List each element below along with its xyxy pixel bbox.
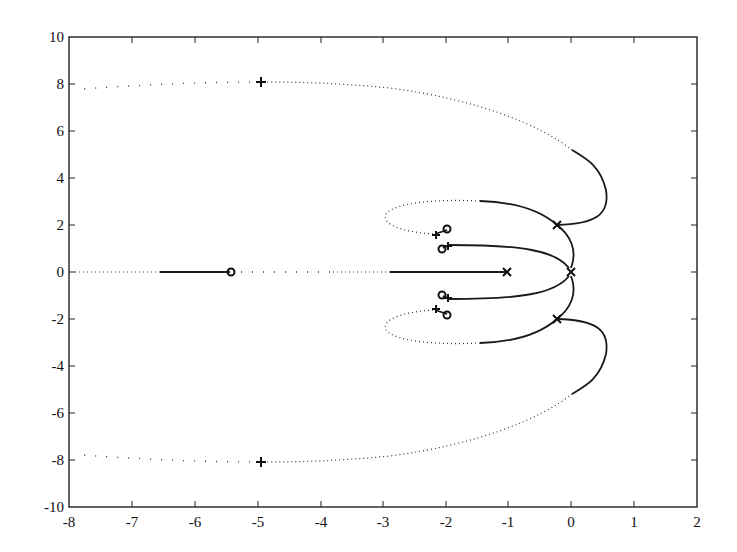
root-locus-chart: -8 -7 -6 -5 -4 -3 -2 -1 0 1 2 10 8 6 4 2… <box>0 0 737 552</box>
zero-o-icon <box>444 226 451 233</box>
plus-icon <box>256 457 266 467</box>
branch-upper-inner <box>443 245 569 268</box>
svg-text:-3: -3 <box>377 514 390 530</box>
plus-icon <box>256 77 266 87</box>
svg-text:10: 10 <box>49 29 64 45</box>
svg-text:1: 1 <box>630 514 638 530</box>
svg-text:2: 2 <box>693 514 701 530</box>
svg-text:4: 4 <box>57 170 65 186</box>
y-tick-labels: 10 8 6 4 2 0 -2 -4 -6 -8 -10 <box>44 29 65 515</box>
svg-text:-10: -10 <box>44 499 64 515</box>
branch-lower-loop <box>385 276 573 344</box>
svg-text:-4: -4 <box>315 514 328 530</box>
svg-text:0: 0 <box>57 264 65 280</box>
svg-text:-4: -4 <box>52 358 65 374</box>
zero-o-icon <box>444 312 451 319</box>
branch-upper-outer <box>82 82 607 225</box>
svg-text:2: 2 <box>57 217 65 233</box>
branch-lower-outer <box>82 319 607 462</box>
svg-text:-8: -8 <box>63 514 76 530</box>
svg-text:-2: -2 <box>440 514 453 530</box>
svg-text:-1: -1 <box>502 514 515 530</box>
svg-text:-5: -5 <box>252 514 265 530</box>
branch-lower-inner <box>443 276 569 299</box>
svg-text:6: 6 <box>57 123 65 139</box>
svg-text:0: 0 <box>567 514 575 530</box>
x-tick-labels: -8 -7 -6 -5 -4 -3 -2 -1 0 1 2 <box>63 514 701 530</box>
pole-markers <box>503 221 575 323</box>
branch-upper-loop <box>385 200 573 268</box>
svg-text:-8: -8 <box>52 452 65 468</box>
svg-text:-2: -2 <box>52 311 65 327</box>
pole-x-icon <box>567 268 575 276</box>
svg-text:-6: -6 <box>52 405 65 421</box>
svg-text:8: 8 <box>57 76 65 92</box>
svg-text:-6: -6 <box>189 514 202 530</box>
svg-text:-7: -7 <box>126 514 139 530</box>
